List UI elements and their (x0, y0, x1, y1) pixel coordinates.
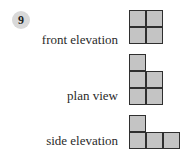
grid-cell (129, 10, 146, 27)
grid-cell (163, 132, 180, 149)
grid-cell (129, 88, 146, 105)
grid-cell (146, 132, 163, 149)
grid-cell (129, 27, 146, 44)
grid-cell (129, 71, 146, 88)
grid-cell (129, 54, 146, 71)
side-elevation-label: side elevation (46, 133, 118, 149)
plan-view-label: plan view (67, 88, 118, 104)
grid-cell (146, 71, 163, 88)
grid-cell (146, 88, 163, 105)
grid-cell (146, 10, 163, 27)
question-number-badge: 9 (12, 11, 30, 29)
grid-cell (129, 132, 146, 149)
grid-cell (146, 27, 163, 44)
grid-cell (129, 115, 146, 132)
front-elevation-label: front elevation (42, 32, 118, 48)
